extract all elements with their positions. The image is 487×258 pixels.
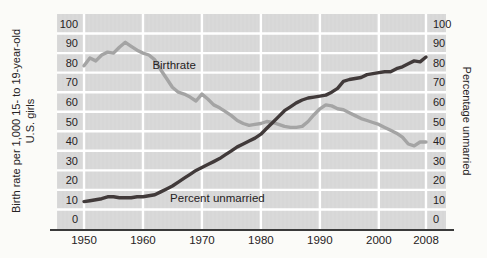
y-tick-label-left: 90 [66, 37, 78, 49]
x-tick-label: 1960 [130, 234, 156, 246]
y-tick-label-left: 10 [66, 194, 78, 206]
x-tick-label: 2000 [366, 234, 392, 246]
y-tick-label-right: 100 [433, 18, 451, 30]
y-tick-label-right: 30 [433, 155, 445, 167]
series-label-birthrate: Birthrate [152, 59, 195, 71]
x-tick-label: 1950 [71, 234, 97, 246]
y-tick-label-right: 80 [433, 57, 445, 69]
chart-canvas: 1001009090808070706060505040403030202010… [0, 0, 487, 258]
x-tick-label: 1990 [307, 234, 333, 246]
y-tick-label-left: 70 [66, 76, 78, 88]
y-tick-label-left: 80 [66, 57, 78, 69]
y-tick-label-right: 70 [433, 76, 445, 88]
y-tick-label-left: 30 [66, 155, 78, 167]
y-tick-label-right: 90 [433, 37, 445, 49]
y-tick-label-right: 50 [433, 116, 445, 128]
x-tick-label: 1980 [248, 234, 274, 246]
y-tick-label-left: 50 [66, 116, 78, 128]
y-tick-label-left: 0 [72, 213, 78, 225]
y-tick-label-left: 20 [66, 174, 78, 186]
y-tick-label-right: 60 [433, 96, 445, 108]
x-tick-label: 2008 [413, 234, 439, 246]
y-tick-label-right: 0 [433, 213, 439, 225]
y-tick-label-left: 60 [66, 96, 78, 108]
x-tick-label: 1970 [189, 234, 215, 246]
y-tick-label-right: 10 [433, 194, 445, 206]
y-tick-label-left: 100 [60, 18, 78, 30]
series-label-percent-unmarried: Percent unmarried [170, 192, 265, 204]
figure: Birth rate per 1,000 15- to 19-year-old … [0, 0, 487, 258]
y-tick-label-right: 20 [433, 174, 445, 186]
y-tick-label-left: 40 [66, 135, 78, 147]
y-axis-title-right: Percentage unmarried [459, 67, 473, 176]
y-tick-label-right: 40 [433, 135, 445, 147]
